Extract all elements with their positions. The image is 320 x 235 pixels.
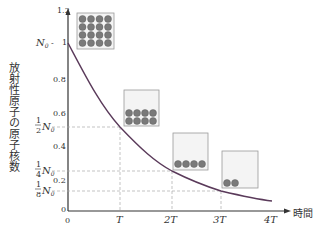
- x-tick-0: 0: [65, 216, 70, 225]
- x-tick-3T: 3T: [213, 214, 227, 225]
- eighth-n0-label: 18 N0: [35, 180, 55, 199]
- inset-t0: [77, 13, 114, 49]
- y-tick-0.6: 0.6: [53, 109, 66, 118]
- svg-text:4: 4: [36, 170, 41, 179]
- inset-3T: [222, 151, 258, 188]
- y-tick-1: 1: [62, 38, 67, 47]
- inset-T: [124, 90, 159, 126]
- decay-diagram: 1.2 1 0.8 0.6 0.4 0.2 0 N0 - 12 N0 14 N0…: [0, 0, 320, 235]
- svg-text:8: 8: [36, 190, 41, 199]
- y-tick-1.2: 1.2: [57, 6, 70, 15]
- y-tick-0.8: 0.8: [53, 75, 66, 84]
- svg-text:2: 2: [36, 126, 41, 135]
- half-n0-label: 12 N0: [35, 116, 55, 135]
- y-tick-0.4: 0.4: [53, 142, 66, 151]
- svg-text:1: 1: [36, 116, 41, 125]
- svg-text:1: 1: [36, 180, 41, 189]
- x-axis-label: 時間: [293, 205, 313, 220]
- y-tick-0.2: 0.2: [53, 176, 66, 185]
- svg-text:N0: N0: [41, 165, 55, 177]
- n0-label: N0 -: [35, 37, 54, 49]
- inset-2T: [173, 133, 208, 170]
- x-tick-T: T: [116, 214, 124, 225]
- svg-text:N0: N0: [41, 185, 55, 197]
- x-tick-2T: 2T: [163, 214, 178, 225]
- x-axis-arrow-icon: [284, 209, 291, 214]
- x-tick-4T: 4T: [263, 214, 278, 225]
- y-tick-0: 0: [61, 205, 66, 214]
- svg-text:N0: N0: [41, 121, 55, 133]
- svg-text:1: 1: [36, 160, 41, 169]
- y-axis-label: 放射性原子の原子核数: [6, 62, 20, 172]
- quarter-n0-label: 14 N0: [35, 160, 55, 179]
